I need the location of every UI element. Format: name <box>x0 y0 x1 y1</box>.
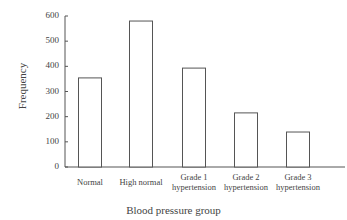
y-axis-label: Frequency <box>16 56 28 116</box>
y-tick-label: 200 <box>35 111 59 121</box>
bar-grade-3-hypertension <box>287 132 310 167</box>
bar-chart: Frequency Blood pressure group 010020030… <box>0 0 347 220</box>
x-axis-label: Blood pressure group <box>0 204 347 216</box>
y-tick-label: 600 <box>35 10 59 20</box>
bar-grade-2-hypertension <box>235 113 258 167</box>
x-category-label: Grade 3hypertension <box>266 172 330 192</box>
bar-normal <box>79 78 102 167</box>
y-tick-label: 300 <box>35 86 59 96</box>
y-tick-label: 0 <box>35 161 59 171</box>
y-tick-label: 400 <box>35 60 59 70</box>
y-tick-label: 100 <box>35 136 59 146</box>
bar-grade-1-hypertension <box>183 68 206 167</box>
y-tick-label: 500 <box>35 35 59 45</box>
bar-high-normal <box>130 21 153 167</box>
